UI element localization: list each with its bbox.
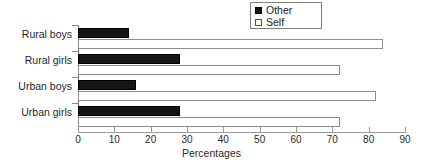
bar-other [78, 28, 129, 38]
x-axis-tick-label: 0 [65, 134, 91, 145]
x-axis-line [78, 132, 406, 133]
bar-other [78, 80, 136, 90]
x-axis-tick [151, 127, 152, 133]
category-label: Urban boys [0, 80, 72, 92]
x-axis-tick [405, 127, 406, 133]
legend-item-other: Other [255, 5, 318, 16]
x-axis-title: Percentages [0, 147, 423, 159]
x-axis-tick [78, 127, 79, 133]
y-axis-tick [72, 25, 79, 26]
filled-square-icon [255, 7, 262, 14]
x-axis-tick-label: 80 [356, 134, 382, 145]
x-axis-tick-label: 70 [319, 134, 345, 145]
x-axis-tick [332, 127, 333, 133]
empty-square-icon [255, 19, 262, 26]
x-axis-tick-label: 50 [247, 134, 273, 145]
category-label: Rural girls [0, 54, 72, 66]
bar-self [78, 117, 340, 127]
x-axis-tick [223, 127, 224, 133]
x-axis-tick-label: 10 [101, 134, 127, 145]
x-axis-tick [369, 127, 370, 133]
category-label: Rural boys [0, 28, 72, 40]
x-axis-tick-label: 20 [138, 134, 164, 145]
bar-self [78, 39, 383, 49]
plot-area [78, 27, 405, 131]
bar-other [78, 106, 180, 116]
bar-chart: Other Self Rural boysRural girlsUrban bo… [0, 0, 423, 163]
bar-self [78, 91, 376, 101]
x-axis-tick [187, 127, 188, 133]
bar-other [78, 54, 180, 64]
x-axis-tick-label: 40 [210, 134, 236, 145]
x-axis-tick-label: 90 [392, 134, 418, 145]
category-label: Urban girls [0, 106, 72, 118]
legend-label-other: Other [266, 5, 292, 16]
x-axis-tick [114, 127, 115, 133]
chart-legend: Other Self [250, 2, 322, 29]
x-axis-tick [296, 127, 297, 133]
x-axis-tick-label: 60 [283, 134, 309, 145]
x-axis-tick [260, 127, 261, 133]
x-axis-tick-label: 30 [174, 134, 200, 145]
bar-self [78, 65, 340, 75]
